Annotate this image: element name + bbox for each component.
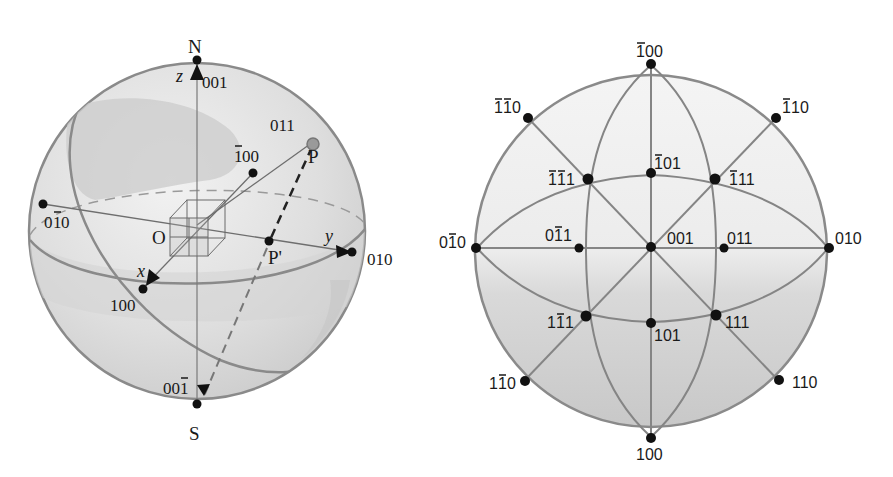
label-100: 100: [636, 446, 663, 463]
pole-110: [774, 375, 784, 385]
pole-minus100: [646, 59, 656, 69]
label-minus1minus11: 1 1 1: [548, 171, 575, 188]
svg-text:01: 01: [663, 155, 681, 172]
svg-text:1: 1: [566, 171, 575, 188]
svg-text:00: 00: [163, 379, 180, 398]
label-y: y: [323, 226, 333, 246]
svg-text:1: 1: [548, 171, 557, 188]
svg-text:10: 10: [791, 99, 809, 116]
svg-text:0: 0: [507, 375, 516, 392]
svg-text:0: 0: [61, 213, 70, 232]
pole-minus1minus10: [523, 113, 533, 123]
svg-text:1: 1: [782, 99, 791, 116]
svg-text:1: 1: [547, 314, 556, 331]
diagram-canvas: N S z 001 011 1 00 P 0 1 0 O P' y 010 x …: [0, 0, 893, 477]
svg-text:1: 1: [494, 99, 503, 116]
reference-sphere: N S z 001 011 1 00 P 0 1 0 O P' y 010 x …: [29, 36, 393, 444]
label-00-1: 00 1: [163, 378, 189, 398]
label-001: 001: [667, 230, 694, 247]
label-O: O: [152, 227, 166, 248]
label-010: 010: [835, 230, 862, 247]
label-111: 111: [725, 314, 749, 331]
svg-text:1: 1: [554, 227, 563, 244]
label-011: 011: [270, 116, 295, 135]
label-1minus11: 1 1 1: [547, 314, 574, 331]
label-0minus11: 0 1 1: [545, 227, 572, 244]
label-010: 010: [367, 250, 393, 269]
svg-text:00: 00: [645, 43, 663, 60]
label-100: 100: [110, 296, 136, 315]
label-minus1minus10: 1 1 0: [494, 99, 521, 116]
label-minus100: 1 00: [636, 43, 663, 60]
svg-text:1: 1: [503, 99, 512, 116]
pole-010-point: [348, 248, 357, 257]
pole-100: [646, 433, 656, 443]
pole-0minus11: [575, 244, 584, 253]
label-minus101: 1 01: [654, 155, 681, 172]
pole-001: [646, 242, 656, 252]
label-001: 001: [202, 73, 228, 92]
label-minus100: 1 00: [234, 146, 259, 166]
label-011: 011: [727, 230, 753, 247]
label-z: z: [175, 66, 183, 86]
svg-text:0: 0: [512, 99, 521, 116]
pole-minus100-point: [249, 169, 258, 178]
svg-text:1: 1: [448, 234, 457, 251]
svg-text:00: 00: [242, 147, 259, 166]
label-Pprime: P': [268, 247, 282, 268]
label-minus111: 1 11: [729, 171, 755, 188]
pole-0minus10: [471, 243, 481, 253]
label-minus110: 1 10: [782, 99, 809, 116]
svg-text:0: 0: [545, 227, 554, 244]
pole-111: [711, 310, 722, 321]
svg-text:1: 1: [180, 379, 189, 398]
label-N: N: [188, 36, 202, 57]
svg-text:11: 11: [738, 171, 755, 188]
label-0minus10: 0 1 0: [439, 234, 466, 251]
figure: N S z 001 011 1 00 P 0 1 0 O P' y 010 x …: [0, 0, 893, 477]
label-S: S: [189, 423, 200, 444]
svg-text:1: 1: [563, 227, 572, 244]
svg-text:1: 1: [636, 43, 645, 60]
label-101: 101: [654, 327, 681, 344]
svg-text:1: 1: [498, 375, 507, 392]
pole-minus111: [710, 174, 721, 185]
label-1minus10: 1 1 0: [489, 375, 516, 392]
pole-0-10-point: [39, 200, 48, 209]
svg-text:1: 1: [654, 155, 663, 172]
svg-text:1: 1: [729, 171, 738, 188]
label-0-10: 0 1 0: [44, 212, 70, 232]
svg-text:1: 1: [489, 375, 498, 392]
svg-text:0: 0: [457, 234, 466, 251]
label-P: P: [308, 146, 319, 167]
pole-100-point: [139, 285, 148, 294]
svg-text:0: 0: [439, 234, 448, 251]
pole-1minus11: [581, 311, 592, 322]
pole-minus110: [771, 113, 781, 123]
pole-010: [824, 243, 834, 253]
pole-S-point: [193, 400, 202, 409]
svg-text:1: 1: [557, 171, 566, 188]
pole-1minus10: [520, 376, 530, 386]
svg-text:1: 1: [565, 314, 574, 331]
label-110: 110: [792, 374, 818, 391]
pole-minus1minus11: [583, 174, 594, 185]
label-x: x: [136, 261, 145, 281]
stereographic-projection: 1 00 1 1 0 1 10 1 01: [439, 43, 862, 463]
pole-Pprime-point: [265, 237, 274, 246]
svg-text:1: 1: [556, 314, 565, 331]
svg-text:0: 0: [44, 213, 53, 232]
